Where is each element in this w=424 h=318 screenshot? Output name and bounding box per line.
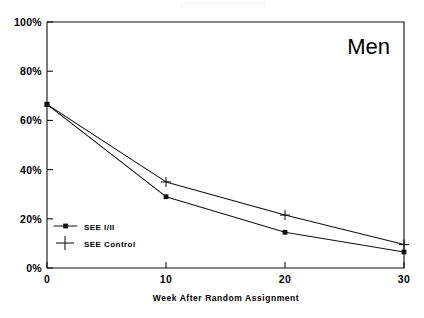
y-tick-label-0: 0% (26, 262, 42, 274)
legend-marker-dot-icon (63, 224, 68, 229)
line-chart: 100% 80% 60% 40% 20% 0% 0 10 20 30 Week … (0, 0, 424, 318)
x-axis-ticks (47, 262, 404, 268)
y-tick-label-100: 100% (14, 16, 42, 28)
panel-title: Men (347, 34, 390, 59)
marker-dot-w0 (44, 102, 49, 107)
series-markers-see-control (161, 177, 409, 250)
y-tick-labels: 100% 80% 60% 40% 20% 0% (14, 16, 42, 274)
marker-dot-w30 (402, 250, 407, 255)
y-tick-label-80: 80% (20, 65, 42, 77)
x-tick-labels: 0 10 20 30 (44, 273, 410, 285)
chart-legend: SEE I/II SEE Control (54, 223, 136, 251)
marker-dot-w20 (283, 230, 288, 235)
y-tick-label-40: 40% (20, 164, 42, 176)
x-tick-label-0: 0 (44, 273, 50, 285)
legend-label-see-i-ii: SEE I/II (84, 223, 115, 232)
legend-marker-plus-icon (56, 236, 74, 250)
x-axis-title: Week After Random Assignment (153, 293, 299, 303)
chart-figure: 100% 80% 60% 40% 20% 0% 0 10 20 30 Week … (0, 0, 424, 318)
x-tick-label-20: 20 (279, 273, 291, 285)
legend-label-see-control: SEE Control (84, 240, 136, 249)
legend-entry-see-i-ii: SEE I/II (54, 223, 115, 232)
marker-dot-w10 (164, 194, 169, 199)
y-tick-label-60: 60% (20, 114, 42, 126)
legend-entry-see-control: SEE Control (56, 236, 136, 250)
x-tick-label-10: 10 (160, 273, 172, 285)
x-tick-label-30: 30 (398, 273, 410, 285)
y-tick-label-20: 20% (20, 213, 42, 225)
y-axis-ticks (47, 22, 53, 268)
